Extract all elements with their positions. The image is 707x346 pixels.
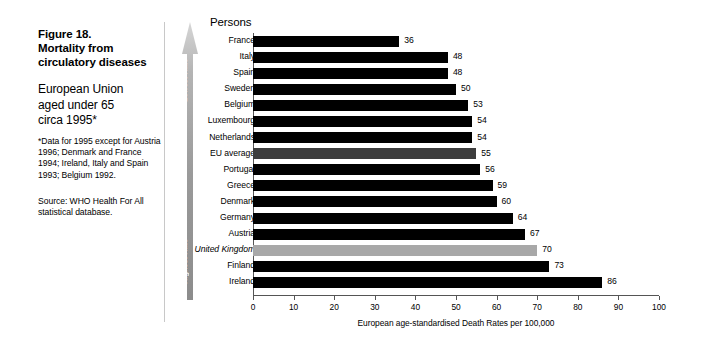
category-label: Germany [145,212,255,222]
bar [253,277,602,288]
x-axis-tick [253,296,254,300]
bar [253,84,456,95]
category-label: Luxembourg [145,115,255,125]
bar-value-label: 60 [502,196,511,206]
x-axis-tick [375,296,376,300]
x-axis-tick-label: 30 [360,302,390,312]
category-label: Greece [145,180,255,190]
category-label: Belgium [145,99,255,109]
x-axis-tick-label: 10 [279,302,309,312]
chart-row: Sweden50 [200,81,707,97]
bar [253,245,537,256]
figure-title-line-3: circulatory diseases [38,55,162,69]
category-label: Spain [145,67,255,77]
category-label: Denmark [145,196,255,206]
x-axis-tick-label: 90 [603,302,633,312]
bar [253,116,472,127]
chart-axis-title-persons: Persons [210,16,252,28]
x-axis-tick [537,296,538,300]
bar-value-label: 48 [453,67,462,77]
category-label: Netherlands [145,132,255,142]
bar [253,148,476,159]
x-axis-tick-label: 70 [522,302,552,312]
bar [253,132,472,143]
figure-title-line-2: Mortality from [38,41,162,55]
bar-value-label: 70 [542,244,551,254]
bar-value-label: 54 [477,115,486,125]
chart-row: France36 [200,33,707,49]
figure-title: Figure 18. Mortality from circulatory di… [38,27,162,69]
bar-value-label: 86 [607,276,616,286]
bar [253,68,448,79]
category-label: Italy [145,51,255,61]
category-label: Ireland [145,276,255,286]
x-axis-tick [415,296,416,300]
bar-value-label: 73 [554,260,563,270]
plot-area: France36Italy48Spain48Sweden50Belgium53L… [200,33,707,295]
category-label: Portugal [145,164,255,174]
category-label: EU average [145,148,255,158]
x-axis-tick [578,296,579,300]
bar [253,100,468,111]
x-axis-tick [618,296,619,300]
left-text-panel: Figure 18. Mortality from circulatory di… [0,0,165,346]
bar-value-label: 50 [461,83,470,93]
x-axis-tick [456,296,457,300]
x-axis-tick-label: 0 [238,302,268,312]
bar-value-label: 54 [477,132,486,142]
figure-source: Source: WHO Health For All statistical d… [38,196,162,218]
bar [253,164,480,175]
chart-row: Germany64 [200,210,707,226]
chart-row: Austria67 [200,226,707,242]
chart-row: Portugal56 [200,162,707,178]
bar [253,229,525,240]
bar-value-label: 55 [481,148,490,158]
chart-row: Denmark60 [200,194,707,210]
figure-page: Figure 18. Mortality from circulatory di… [0,0,707,346]
chart-row: Netherlands54 [200,130,707,146]
x-axis-title: European age-standardised Death Rates pe… [253,318,659,328]
bar [253,52,448,63]
x-axis-tick [497,296,498,300]
chart-row: United Kingdom70 [200,242,707,258]
chart-row: EU average55 [200,146,707,162]
bar-value-label: 36 [404,35,413,45]
chart-row: Belgium53 [200,97,707,113]
category-label: Finland [145,260,255,270]
x-axis-tick-label: 40 [400,302,430,312]
category-label: Austria [145,228,255,238]
category-label: United Kingdom [145,244,255,254]
x-axis-tick-label: 20 [319,302,349,312]
chart-row: Greece59 [200,178,707,194]
bar [253,180,493,191]
bar-value-label: 53 [473,99,482,109]
figure-title-line-1: Figure 18. [38,27,162,41]
bar [253,261,549,272]
category-label: Sweden [145,83,255,93]
bar-value-label: 56 [485,164,494,174]
bar-value-label: 48 [453,51,462,61]
x-axis-tick-label: 50 [441,302,471,312]
chart-row: Ireland86 [200,274,707,290]
x-axis-tick-label: 60 [482,302,512,312]
chart-row: Spain48 [200,65,707,81]
x-axis-tick-label: 80 [563,302,593,312]
chart-row: Finland73 [200,258,707,274]
x-axis-tick [659,296,660,300]
x-axis-tick [334,296,335,300]
bar-value-label: 59 [498,180,507,190]
bar-chart: Persons France36Italy48Spain48Sweden50Be… [200,0,707,346]
bar [253,36,399,47]
chart-row: Luxembourg54 [200,113,707,129]
chart-row: Italy48 [200,49,707,65]
bar-value-label: 64 [518,212,527,222]
bar [253,196,497,207]
bar-value-label: 67 [530,228,539,238]
figure-footnote: *Data for 1995 except for Austria 1996; … [38,136,162,181]
bar [253,213,513,224]
x-axis-tick-label: 100 [644,302,674,312]
category-label: France [145,35,255,45]
x-axis-tick [294,296,295,300]
